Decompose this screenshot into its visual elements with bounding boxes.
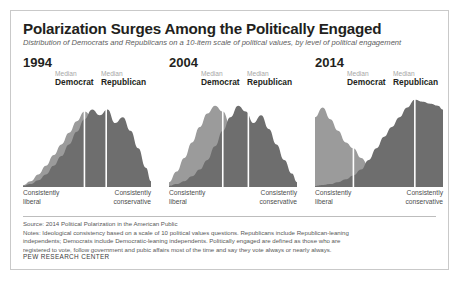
panel-year-label: 2004 xyxy=(169,55,198,70)
axis-label-line-2: liberal xyxy=(315,198,351,206)
notes-line-2: independents; Democrats include Democrat… xyxy=(23,237,436,246)
organization-credit: PEW RESEARCH CENTER xyxy=(23,253,110,260)
axis-label-line-2: conservative xyxy=(405,198,443,206)
notes-line-1: Notes: Ideological consistency based on … xyxy=(23,229,436,238)
axis-label-line-2: liberal xyxy=(169,198,205,206)
panel-1994: 1994MedianDemocratMedianRepublicanConsis… xyxy=(23,55,151,205)
axis-label-liberal: Consistentlyliberal xyxy=(315,189,351,206)
axis-label-conservative: Consistentlyconservative xyxy=(405,189,443,206)
median-party: Republican xyxy=(393,78,438,87)
median-party: Democrat xyxy=(347,78,386,87)
median-party: Republican xyxy=(101,78,146,87)
median-party: Democrat xyxy=(55,78,94,87)
median-democrat-label: MedianDemocrat xyxy=(55,71,94,87)
axis-label-conservative: Consistentlyconservative xyxy=(113,189,151,206)
median-democrat-label: MedianDemocrat xyxy=(201,71,240,87)
median-republican-label: MedianRepublican xyxy=(101,71,146,87)
median-party: Democrat xyxy=(201,78,240,87)
axis-label-line-2: conservative xyxy=(113,198,151,206)
median-democrat-label: MedianDemocrat xyxy=(347,71,386,87)
panel-2014: 2014MedianDemocratMedianRepublicanConsis… xyxy=(315,55,443,205)
source-line: Source: 2014 Political Polarization in t… xyxy=(23,220,436,229)
density-plot-2014 xyxy=(315,95,443,187)
page-subtitle: Distribution of Democrats and Republican… xyxy=(23,38,401,47)
footer-divider xyxy=(23,216,436,217)
footer-notes: Source: 2014 Political Polarization in t… xyxy=(23,220,436,255)
axis-label-line-1: Consistently xyxy=(113,189,151,197)
panel-2004: 2004MedianDemocratMedianRepublicanConsis… xyxy=(169,55,297,205)
median-republican-label: MedianRepublican xyxy=(393,71,438,87)
axis-label-line-1: Consistently xyxy=(259,189,297,197)
axis-label-liberal: Consistentlyliberal xyxy=(23,189,59,206)
axis-label-line-1: Consistently xyxy=(315,189,351,197)
axis-label-line-2: conservative xyxy=(259,198,297,206)
panel-year-label: 1994 xyxy=(23,55,52,70)
axis-label-liberal: Consistentlyliberal xyxy=(169,189,205,206)
infographic-frame: Polarization Surges Among the Politicall… xyxy=(10,10,449,270)
axis-label-line-1: Consistently xyxy=(405,189,443,197)
page-title: Polarization Surges Among the Politicall… xyxy=(23,20,381,37)
axis-label-line-1: Consistently xyxy=(169,189,205,197)
density-plot-1994 xyxy=(23,95,151,187)
axis-label-conservative: Consistentlyconservative xyxy=(259,189,297,206)
panel-year-label: 2014 xyxy=(315,55,344,70)
axis-label-line-2: liberal xyxy=(23,198,59,206)
median-party: Republican xyxy=(247,78,292,87)
density-plot-2004 xyxy=(169,95,297,187)
axis-label-line-1: Consistently xyxy=(23,189,59,197)
median-republican-label: MedianRepublican xyxy=(247,71,292,87)
